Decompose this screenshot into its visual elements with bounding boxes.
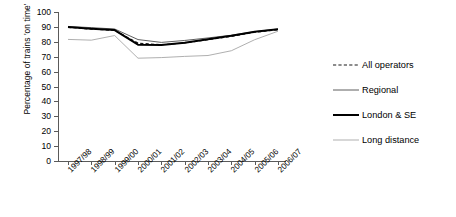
legend-label: London & SE (362, 110, 416, 120)
y-tick-label: 20 (41, 126, 51, 136)
legend-label: Long distance (362, 135, 419, 145)
legend-label: All operators (362, 60, 414, 70)
legend-swatch-icon (333, 60, 359, 70)
y-tick-label: 100 (37, 7, 51, 17)
legend-item-long-distance[interactable]: Long distance (333, 127, 453, 152)
y-tick-label: 80 (41, 37, 51, 47)
y-tick-label: 40 (41, 96, 51, 106)
series-line-london-se (68, 27, 278, 45)
y-tick-label: 90 (41, 22, 51, 32)
y-tick-label: 30 (41, 111, 51, 121)
y-tick-label: 70 (41, 52, 51, 62)
legend-swatch-icon (333, 110, 359, 120)
legend-swatch-icon (333, 85, 359, 95)
legend-item-regional[interactable]: Regional (333, 77, 453, 102)
y-axis-title: Percentage of trains 'on time' (22, 0, 32, 134)
plot-area: 0102030405060708090100 1997/981998/99199… (58, 12, 286, 162)
chart-legend: All operatorsRegionalLondon & SELong dis… (333, 52, 453, 152)
y-tick-label: 50 (41, 82, 51, 92)
series-lines (58, 12, 286, 162)
legend-swatch-icon (333, 135, 359, 145)
y-tick-label: 10 (41, 141, 51, 151)
chart-container: Percentage of trains 'on time' 010203040… (0, 0, 456, 217)
y-tick-label: 0 (46, 156, 51, 166)
legend-item-london-se[interactable]: London & SE (333, 102, 453, 127)
legend-label: Regional (362, 85, 398, 95)
y-tick-label: 60 (41, 67, 51, 77)
legend-item-all-operators[interactable]: All operators (333, 52, 453, 77)
